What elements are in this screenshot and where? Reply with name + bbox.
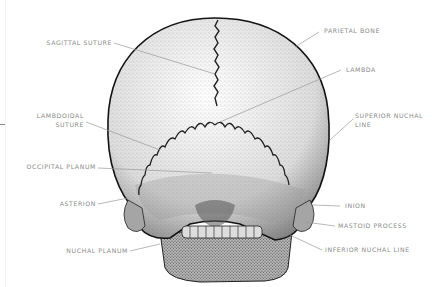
label-lambdoidal-suture-line2: SUTURE (30, 121, 84, 129)
label-parietal-bone: PARIETAL BONE (324, 27, 380, 35)
label-superior-nuchal-line-2: LINE (355, 121, 371, 129)
label-lambda: LAMBDA (346, 66, 376, 74)
label-superior-nuchal-line-1: SUPERIOR NUCHAL (355, 112, 423, 120)
label-nuchal-planum: NUCHAL PLANUM (40, 247, 128, 255)
label-inferior-nuchal-line: INFERIOR NUCHAL LINE (325, 246, 410, 254)
label-lambdoidal-suture-line1: LAMBDOIDAL (30, 112, 84, 120)
label-asterion: ASTERION (40, 200, 96, 208)
label-sagittal-suture: SAGITTAL SUTURE (40, 39, 112, 47)
teeth (182, 226, 262, 238)
label-inion: INION (345, 202, 366, 210)
label-occipital-planum: OCCIPITAL PLANUM (10, 163, 96, 171)
label-mastoid-process: MASTOID PROCESS (338, 222, 407, 230)
